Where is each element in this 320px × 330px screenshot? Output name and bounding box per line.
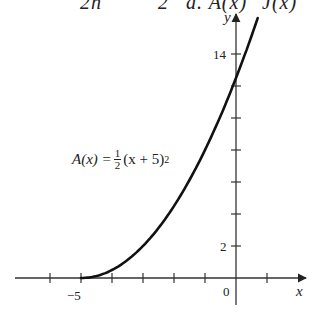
function-label: A(x) = 1 2 (x + 5) 2 — [72, 148, 169, 171]
x-tick-label-minus5: −5 — [67, 288, 81, 303]
y-axis-label: y — [222, 9, 231, 25]
fraction-denominator: 2 — [115, 160, 121, 171]
x-tick-label-0: 0 — [223, 284, 230, 299]
formula-fraction: 1 2 — [114, 148, 122, 171]
y-tick-label-14: 14 — [213, 47, 227, 62]
formula-rhs: (x + 5) — [123, 151, 164, 168]
formula-exponent: 2 — [164, 154, 169, 165]
y-tick-label-2: 2 — [220, 239, 227, 254]
x-axis-label: x — [295, 283, 303, 299]
formula-lhs: A(x) = — [72, 151, 112, 168]
